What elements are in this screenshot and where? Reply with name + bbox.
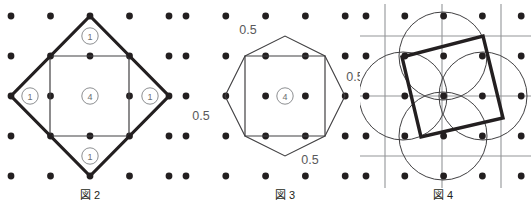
fig3-grid-dot bbox=[183, 13, 190, 20]
fig4-grid-dot bbox=[401, 133, 408, 140]
area-label-center-text: 4 bbox=[87, 92, 92, 102]
fig4-grid-dot bbox=[440, 93, 447, 100]
fig3-grid-dot bbox=[183, 93, 190, 100]
fig4-grid-dot bbox=[440, 13, 447, 20]
fig2-grid-dot bbox=[8, 13, 15, 20]
fig2-caption: 図 2 bbox=[80, 189, 100, 201]
area-label-right-text: 1 bbox=[147, 92, 152, 102]
fig3-measure-labels: 0.50.540.50.5 bbox=[192, 23, 360, 167]
area-label-top: 1 bbox=[82, 28, 98, 44]
area-label-right: 1 bbox=[142, 88, 158, 104]
length-label-left: 0.5 bbox=[192, 109, 209, 123]
fig2-grid-dot bbox=[8, 133, 15, 140]
length-label-bottom-text: 0.5 bbox=[301, 153, 318, 167]
fig3-grid-dot bbox=[342, 133, 349, 140]
area-label-center: 4 bbox=[277, 88, 293, 104]
area-label-left: 1 bbox=[22, 88, 38, 104]
length-label-bottom: 0.5 bbox=[301, 153, 318, 167]
fig2-grid-dot bbox=[166, 53, 173, 60]
fig2-grid-dot bbox=[8, 53, 15, 60]
fig4-tilted-square bbox=[402, 36, 503, 137]
fig3-grid-dot bbox=[222, 13, 229, 20]
fig3-grid-dot bbox=[222, 53, 229, 60]
fig3-grid-dot bbox=[262, 93, 269, 100]
fig3-grid-dot bbox=[222, 173, 229, 180]
fig3-caption: 図 3 bbox=[275, 189, 295, 201]
length-label-top-text: 0.5 bbox=[239, 23, 256, 37]
fig4-grid-dot bbox=[401, 173, 408, 180]
figure-2-svg: 11411 図 2 bbox=[0, 0, 180, 214]
length-label-right-text: 0.5 bbox=[346, 70, 360, 84]
fig2-grid-dot bbox=[47, 13, 54, 20]
fig4-caption: 図 4 bbox=[433, 189, 453, 201]
fig4-grid-dot bbox=[401, 13, 408, 20]
fig2-grid-dot bbox=[8, 173, 15, 180]
fig2-grid-dot bbox=[166, 13, 173, 20]
fig3-grid-dot bbox=[302, 173, 309, 180]
fig3-grid-dot bbox=[342, 53, 349, 60]
fig2-grid-dot bbox=[166, 133, 173, 140]
fig2-grid-dot bbox=[126, 173, 133, 180]
figure-panel-fig4: 図 4 bbox=[360, 0, 531, 214]
fig4-grid-dot bbox=[363, 93, 370, 100]
fig4-grid-dot bbox=[479, 53, 486, 60]
fig4-grid-dot bbox=[479, 93, 486, 100]
fig2-grid-dot bbox=[47, 173, 54, 180]
fig3-grid-dot bbox=[183, 53, 190, 60]
area-label-center: 4 bbox=[82, 88, 98, 104]
fig4-grid-dot bbox=[363, 133, 370, 140]
length-label-left-text: 0.5 bbox=[192, 109, 209, 123]
area-label-bottom-text: 1 bbox=[87, 152, 92, 162]
fig4-grid-dot bbox=[363, 53, 370, 60]
figure-board: 11411 図 2 0.50.540.50.5 図 3 図 4 bbox=[0, 0, 531, 214]
fig3-grid-dot bbox=[262, 173, 269, 180]
fig3-grid-dot bbox=[342, 13, 349, 20]
fig4-grid-dot bbox=[401, 93, 408, 100]
fig3-grid-dot bbox=[222, 133, 229, 140]
fig4-grid-dot bbox=[479, 173, 486, 180]
area-label-bottom: 1 bbox=[82, 148, 98, 164]
fig4-grid-dot bbox=[440, 53, 447, 60]
area-label-center-text: 4 bbox=[282, 92, 287, 102]
fig3-grid-dot bbox=[302, 13, 309, 20]
figure-panel-fig2: 11411 図 2 bbox=[0, 0, 180, 214]
fig4-grid-dot bbox=[479, 13, 486, 20]
area-label-top-text: 1 bbox=[87, 32, 92, 42]
fig4-grid-dot bbox=[479, 133, 486, 140]
fig4-grid-dot bbox=[518, 13, 525, 20]
fig4-grid-dot bbox=[518, 93, 525, 100]
length-label-top: 0.5 bbox=[239, 23, 256, 37]
fig3-grid-dot bbox=[183, 133, 190, 140]
fig2-grid-dot bbox=[126, 13, 133, 20]
area-label-left-text: 1 bbox=[27, 92, 32, 102]
fig3-grid-dot bbox=[183, 173, 190, 180]
fig4-grid-dot bbox=[518, 173, 525, 180]
fig3-grid-dot bbox=[302, 93, 309, 100]
fig3-grid-dot bbox=[342, 173, 349, 180]
figure-panel-fig3: 0.50.540.50.5 図 3 bbox=[180, 0, 360, 214]
figure-4-svg: 図 4 bbox=[360, 0, 531, 214]
fig2-grid-dot bbox=[166, 173, 173, 180]
length-label-right: 0.5 bbox=[346, 70, 360, 84]
fig4-grid-dot bbox=[440, 173, 447, 180]
fig3-dot-grid bbox=[183, 13, 360, 180]
fig4-grid-dot bbox=[518, 133, 525, 140]
figure-3-svg: 0.50.540.50.5 図 3 bbox=[180, 0, 360, 214]
fig2-area-labels: 11411 bbox=[22, 28, 158, 164]
fig4-grid-dot bbox=[363, 173, 370, 180]
fig4-grid-dot bbox=[363, 13, 370, 20]
fig3-grid-dot bbox=[262, 13, 269, 20]
fig4-grid-dot bbox=[518, 53, 525, 60]
